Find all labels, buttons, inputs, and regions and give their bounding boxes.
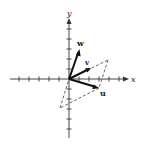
vector-diagram: x y [0, 0, 143, 148]
vector-u-label: u [100, 88, 106, 98]
vector-u: u [69, 79, 106, 98]
y-axis-arrowhead-icon [67, 18, 72, 24]
vector-w-label: w [76, 38, 85, 48]
x-axis-label: x [131, 75, 136, 84]
y-axis-label: y [66, 9, 72, 18]
vector-v-label: v [84, 58, 90, 67]
x-axis-arrowhead-icon [123, 77, 129, 82]
